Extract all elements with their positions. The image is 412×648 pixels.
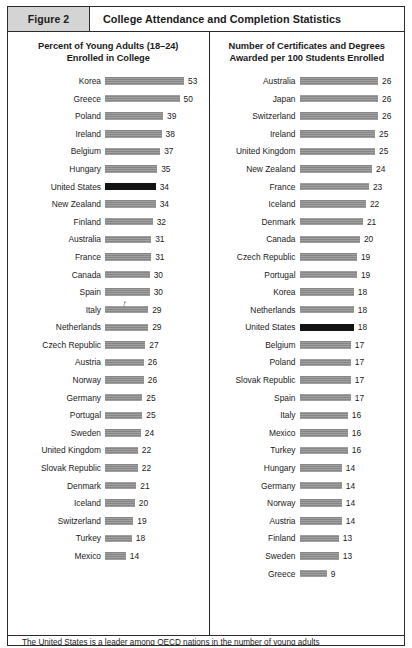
bar-row: Turkey16 [210,442,405,460]
bar-row-label: Canada [210,234,300,244]
bar-value-label: 14 [346,498,355,508]
bar-row-label: Austria [210,516,300,526]
bar-track: 17 [300,394,405,402]
chart-title-line-1: Percent of Young Adults (18–24) [14,41,203,53]
bar-row-label: Slovak Republic [210,375,300,385]
bar-row: Portugal19 [210,266,405,284]
bar-row: Netherlands18 [210,301,405,319]
bar-row: Italy16 [210,406,405,424]
bar-row-label: Belgium [8,146,105,156]
bar-value-label: 23 [373,182,382,192]
bar-row: Canada30 [8,266,209,284]
bar-row: New Zealand34 [8,195,209,213]
bar-value-label: 19 [361,270,370,280]
bar-row: Germany14 [210,477,405,495]
bar [105,429,141,437]
bar [105,218,153,226]
bar-value-label: 17 [355,357,364,367]
bar-track: 19 [300,253,405,261]
bar-track: 26 [300,112,405,120]
bar-row-label: Norway [8,375,105,385]
bar-row: Slovak Republic22 [8,459,209,477]
bar-value-label: 37 [164,146,173,156]
bar-row-label: Greece [210,569,300,579]
bar [105,271,150,279]
bar-value-label: 22 [370,199,379,209]
bar-row: Netherlands29 [8,319,209,337]
bar-track: 19 [105,517,209,525]
bar-track: 30 [105,288,209,296]
bar [105,552,126,560]
figure-title-bar: Figure 2 College Attendance and Completi… [8,7,404,32]
bar-row: Sweden13 [210,547,405,565]
bar-row-label: Finland [8,217,105,227]
bar-track: 26 [300,77,405,85]
bar [300,218,363,226]
bar-row-label: Australia [8,234,105,244]
bar-track: 29 [105,324,209,332]
bar-value-label: 21 [367,217,376,227]
bar-row-label: Portugal [8,410,105,420]
bar-value-label: 26 [148,357,157,367]
bar-row: United Kingdom25 [210,143,405,161]
bar-value-label: 29 [152,305,161,315]
bar-track: 17 [300,376,405,384]
bar [300,552,339,560]
bar-row-label: France [8,252,105,262]
bar-row-label: Iceland [210,199,300,209]
bar-row-label: Ireland [210,129,300,139]
bar-track: 18 [300,324,405,332]
bar-track: 35 [105,165,209,173]
bar-value-label: 34 [160,182,169,192]
bar-row: Canada20 [210,231,405,249]
bar-track: 14 [300,499,405,507]
chart-title-line-2: Awarded per 100 Students Enrolled [216,53,399,65]
bar [105,341,145,349]
bar-row-label: Sweden [210,551,300,561]
bar-value-label: 18 [358,322,367,332]
bar-value-label: 13 [343,551,352,561]
bar-row: Finland32 [8,213,209,231]
chart-panel-enrollment: Percent of Young Adults (18–24) Enrolled… [8,32,210,636]
bar [105,130,162,138]
bar-value-label: 22 [142,463,151,473]
bar-row-label: Hungary [8,164,105,174]
bar-value-label: 17 [355,340,364,350]
chart-title-enrollment: Percent of Young Adults (18–24) Enrolled… [8,41,209,64]
bar-value-label: 53 [188,76,197,86]
bar-track: 38 [105,130,209,138]
bar-rows-completion: Australia26Japan26Switzerland26Ireland25… [210,72,405,582]
bar-value-label: 19 [361,252,370,262]
bar-value-label: 25 [379,129,388,139]
bar-value-label: 16 [352,445,361,455]
bar-row: Denmark21 [8,477,209,495]
bar-value-label: 14 [346,463,355,473]
bar-row: Norway14 [210,494,405,512]
bar-row-label: United States [210,322,300,332]
bar-row-label: Iceland [8,498,105,508]
bar [300,236,360,244]
bar-row-label: Korea [8,76,105,86]
bar [300,341,351,349]
bar-value-label: 50 [184,94,193,104]
chart-title-line-2: Enrolled in College [14,53,203,65]
bar [300,183,369,191]
bar-row: Japan26 [210,90,405,108]
bar-row: Mexico16 [210,424,405,442]
bar [300,288,354,296]
bar-row: Ireland25 [210,125,405,143]
bar-row: United Kingdom22 [8,442,209,460]
bar-row: Poland17 [210,354,405,372]
bar-row-label: Czech Republic [210,252,300,262]
bar-track: 18 [105,535,209,543]
figure-title: College Attendance and Completion Statis… [90,7,404,31]
bar-row-label: Hungary [210,463,300,473]
bar-track: 31 [105,253,209,261]
bar-track: 17 [300,359,405,367]
bar-row: New Zealand24 [210,160,405,178]
bar-row-label: Poland [8,111,105,121]
bar-value-label: 25 [146,410,155,420]
bar-row: Switzerland26 [210,107,405,125]
bar-row-label: Portugal [210,270,300,280]
bar-row: Australia26 [210,72,405,90]
